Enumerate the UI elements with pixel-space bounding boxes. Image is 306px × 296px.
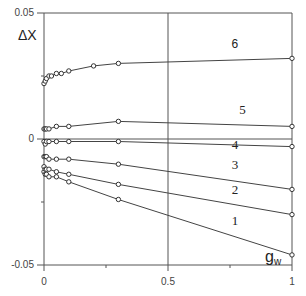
- data-point: [116, 162, 120, 166]
- data-point: [54, 139, 58, 143]
- data-point: [116, 139, 120, 143]
- data-point: [116, 197, 120, 201]
- data-point: [116, 182, 120, 186]
- labels-group: 123456: [232, 37, 246, 227]
- data-point: [116, 119, 120, 123]
- x-tick-label: 0.5: [161, 276, 175, 287]
- data-point: [67, 139, 71, 143]
- data-point: [47, 127, 51, 131]
- data-point: [290, 212, 294, 216]
- data-point: [47, 175, 51, 179]
- data-point: [290, 253, 294, 257]
- curve-label-3: 3: [232, 157, 239, 172]
- data-point: [290, 56, 294, 60]
- data-point: [67, 124, 71, 128]
- x-tick-label: 1: [289, 276, 295, 287]
- axes: 0.050-0.0500.51ΔXgw: [11, 7, 295, 287]
- data-point: [54, 175, 58, 179]
- data-point: [49, 74, 53, 78]
- data-point: [54, 157, 58, 161]
- curve-label-4: 4: [232, 137, 239, 152]
- data-point: [47, 139, 51, 143]
- data-point: [47, 157, 51, 161]
- data-point: [67, 157, 71, 161]
- line-chart: 0.050-0.0500.51ΔXgw 123456: [0, 0, 306, 296]
- data-point: [54, 71, 58, 75]
- y-tick-label: 0: [28, 133, 34, 144]
- data-point: [54, 124, 58, 128]
- curve-label-2: 2: [232, 182, 239, 197]
- data-point: [59, 71, 63, 75]
- data-point: [290, 187, 294, 191]
- data-point: [290, 144, 294, 148]
- y-tick-label: 0.05: [15, 7, 35, 18]
- data-point: [67, 172, 71, 176]
- data-point: [67, 180, 71, 184]
- curve-label-5: 5: [239, 102, 246, 117]
- x-tick-label: 0: [41, 276, 47, 287]
- data-point: [67, 69, 71, 73]
- data-point: [91, 64, 95, 68]
- curve-label-1: 1: [232, 213, 239, 228]
- data-point: [47, 167, 51, 171]
- y-axis-label: ΔX: [18, 27, 37, 43]
- data-point: [54, 170, 58, 174]
- data-point: [290, 124, 294, 128]
- curve-label-6: 6: [232, 37, 239, 51]
- y-tick-label: -0.05: [11, 259, 34, 270]
- data-point: [116, 61, 120, 65]
